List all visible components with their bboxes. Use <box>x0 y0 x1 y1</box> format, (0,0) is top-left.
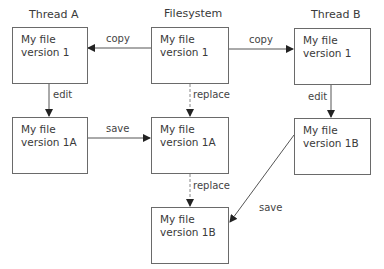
box-line-2: version 1B <box>303 137 370 150</box>
replace-1-label: replace <box>193 89 230 100</box>
box-line-1: My file <box>21 123 87 136</box>
box-line-1: My file <box>303 124 370 137</box>
box-line-1: My file <box>160 123 228 136</box>
box-line-1: My file <box>160 213 228 226</box>
save-b-label: save <box>259 202 282 213</box>
box-line-1: My file <box>160 33 228 46</box>
edit-b-label: edit <box>308 91 327 102</box>
box-line-2: version 1A <box>160 136 228 149</box>
box-line-2: version 1B <box>160 226 228 239</box>
box-line-2: version 1 <box>21 46 87 59</box>
copy-right-label: copy <box>249 34 273 45</box>
filesystem-box-version-1: My file version 1 <box>151 27 229 84</box>
column-title-filesystem: Filesystem <box>164 7 222 20</box>
column-title-thread-a: Thread A <box>29 8 78 21</box>
box-line-2: version 1 <box>303 47 370 60</box>
box-line-2: version 1 <box>160 46 228 59</box>
thread-b-box-version-1: My file version 1 <box>294 28 371 85</box>
thread-a-box-version-1a: My file version 1A <box>12 117 88 174</box>
thread-a-box-version-1: My file version 1 <box>12 27 88 84</box>
box-line-1: My file <box>303 34 370 47</box>
thread-b-box-version-1b: My file version 1B <box>294 118 371 175</box>
box-line-2: version 1A <box>21 136 87 149</box>
edit-a-label: edit <box>53 89 72 100</box>
filesystem-box-version-1a: My file version 1A <box>151 117 229 174</box>
filesystem-box-version-1b: My file version 1B <box>151 207 229 264</box>
save-a-label: save <box>106 123 129 134</box>
box-line-1: My file <box>21 33 87 46</box>
replace-2-label: replace <box>193 180 230 191</box>
column-title-thread-b: Thread B <box>311 8 361 21</box>
copy-left-label: copy <box>106 33 130 44</box>
